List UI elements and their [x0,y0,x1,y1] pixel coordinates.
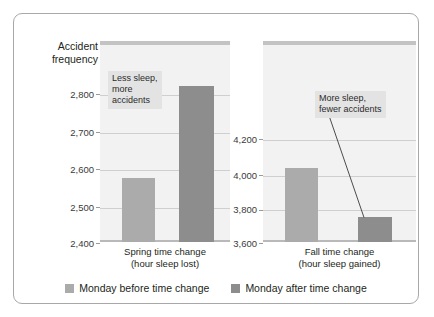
legend-swatch-icon-after [231,284,240,293]
x-axis-caption-fall: Fall time change (hour sleep gained) [263,246,416,269]
legend-swatch-icon-before [65,284,74,293]
tick-dash-icon [96,169,100,170]
tick-dash-icon [259,243,263,244]
y-tick-label-4200: 4,200 [217,135,263,145]
annotation-more-sleep: More sleep, fewer accidents [315,91,386,118]
tick-dash-icon [259,139,263,140]
y-tick-label-2700: 2,700 [54,128,100,138]
y-tick-label-4000: 4,000 [217,171,263,181]
y-tick-label-3800: 3,800 [217,205,263,215]
bar-spring-after [179,86,214,242]
x-axis-caption-spring: Spring time change (hour sleep lost) [100,246,230,269]
legend: Monday before time change Monday after t… [14,282,418,294]
chart-panel-fall: 4,200 4,000 3,800 3,600 More sleep, fewe… [263,41,416,242]
bar-spring-before [122,178,155,242]
y-tick-label-2800: 2,800 [54,90,100,100]
chart-panel-spring: 2,800 2,700 2,600 2,500 2,400 Less sleep… [100,41,230,242]
gridline-4200 [263,140,416,141]
tick-dash-icon [96,132,100,133]
tick-dash-icon [96,207,100,208]
legend-label-before: Monday before time change [79,282,209,294]
bar-fall-before [285,168,318,243]
plot-area-spring: 2,800 2,700 2,600 2,500 2,400 Less sleep… [100,49,230,242]
legend-item-after: Monday after time change [231,282,366,294]
bar-fall-after [358,217,392,242]
legend-item-before: Monday before time change [65,282,209,294]
chart-card: Accident frequency 2,800 2,700 2,600 2,5… [13,13,419,304]
annotation-less-sleep: Less sleep, more accidents [108,71,162,109]
tick-dash-icon [259,210,263,211]
y-tick-label-2600: 2,600 [54,165,100,175]
y-tick-label-2400: 2,400 [54,239,100,249]
plot-area-fall: 4,200 4,000 3,800 3,600 More sleep, fewe… [263,49,416,242]
legend-label-after: Monday after time change [245,282,366,294]
tick-dash-icon [96,94,100,95]
tick-dash-icon [259,175,263,176]
y-axis-title: Accident frequency [20,40,98,65]
y-tick-label-2500: 2,500 [54,203,100,213]
tick-dash-icon [96,243,100,244]
